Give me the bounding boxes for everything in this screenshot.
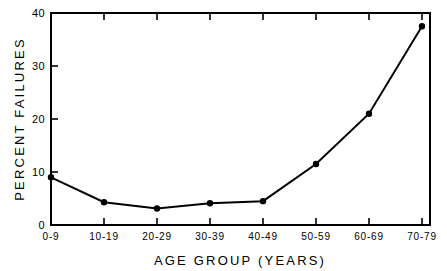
y-tick-label-10: 10 [32, 166, 45, 178]
y-axis-title: PERCENT FAILURES [12, 37, 27, 201]
x-tick-label-5: 50-59 [301, 231, 331, 242]
data-point-40-49 [260, 198, 266, 204]
x-tick-label-7: 70-79 [407, 231, 437, 242]
y-axis-tick-labels: 0 10 20 30 40 [32, 7, 45, 231]
x-tick-label-0: 0-9 [43, 231, 60, 242]
x-tick-label-2: 20-29 [142, 231, 172, 242]
data-series-markers [48, 23, 425, 212]
y-tick-label-0: 0 [38, 219, 45, 231]
data-point-60-69 [366, 111, 372, 117]
x-tick-label-3: 30-39 [195, 231, 225, 242]
x-tick-label-6: 60-69 [354, 231, 384, 242]
y-tick-label-20: 20 [32, 113, 45, 125]
plot-frame [51, 13, 430, 225]
x-axis-title: AGE GROUP (YEARS) [154, 253, 326, 268]
data-point-10-19 [101, 199, 107, 205]
data-point-50-59 [313, 161, 319, 167]
data-series-line [51, 26, 422, 208]
x-tick-label-4: 40-49 [248, 231, 278, 242]
y-axis-ticks [51, 13, 58, 225]
y-tick-label-30: 30 [32, 60, 45, 72]
data-point-20-29 [154, 205, 160, 211]
x-tick-label-1: 10-19 [89, 231, 119, 242]
x-axis-tick-labels: 0-9 10-19 20-29 30-39 40-49 50-59 60-69 … [43, 231, 437, 242]
x-axis-ticks [51, 13, 422, 225]
chart-figure: 0 10 20 30 40 0-9 10 [0, 0, 447, 271]
y-tick-label-40: 40 [32, 7, 45, 19]
data-point-70-79 [419, 23, 425, 29]
data-point-30-39 [207, 200, 213, 206]
line-chart: 0 10 20 30 40 0-9 10 [0, 0, 447, 271]
data-point-0-9 [48, 174, 54, 180]
